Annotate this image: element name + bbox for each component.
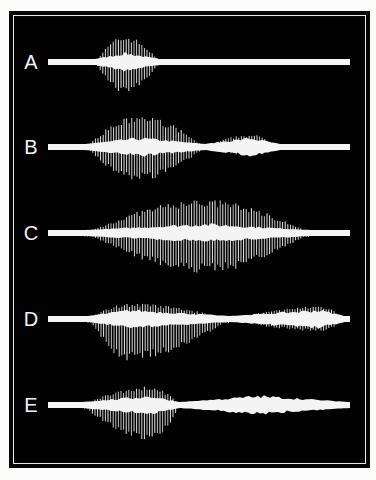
trace-label-c: C <box>21 190 41 276</box>
trace-e <box>48 387 350 440</box>
figure-caption-cropped <box>12 472 364 480</box>
trace-label-d: D <box>21 276 41 362</box>
trace-b <box>48 117 350 179</box>
waveform-traces <box>0 0 376 480</box>
trace-label-a: A <box>21 19 41 105</box>
trace-d <box>48 304 350 360</box>
trace-a <box>48 39 350 91</box>
trace-c <box>48 200 350 272</box>
trace-label-e: E <box>21 362 41 448</box>
trace-label-b: B <box>21 104 41 190</box>
